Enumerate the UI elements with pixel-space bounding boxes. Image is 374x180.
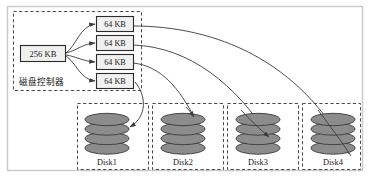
diagram-canvas: 256 KB 64 KB 64 KB 64 KB 64 KB 磁盘控制器 Di	[0, 0, 374, 180]
disk-label-1: Disk1	[97, 158, 117, 167]
stripe-block-2-label: 64 KB	[104, 39, 126, 48]
stripe-block-4[interactable]: 64 KB	[97, 74, 134, 89]
stripe-block-2[interactable]: 64 KB	[97, 36, 134, 51]
stripe-block-1-label: 64 KB	[104, 20, 126, 29]
disk-label-4: Disk4	[323, 158, 344, 167]
source-fanout-connectors	[66, 24, 95, 81]
disk-stack-3[interactable]	[236, 113, 280, 154]
disk-stack-4[interactable]	[311, 113, 355, 154]
stripe-block-3-label: 64 KB	[104, 58, 126, 67]
source-block[interactable]: 256 KB	[21, 46, 66, 62]
stripe-block-4-label: 64 KB	[104, 77, 126, 86]
disk-label-2: Disk2	[173, 158, 193, 167]
connector-stripe3-disk2	[133, 63, 194, 117]
disk-striping-diagram: 256 KB 64 KB 64 KB 64 KB 64 KB 磁盘控制器 Di	[0, 0, 374, 180]
connector-source-stripe4	[66, 56, 95, 81]
controller-caption: 磁盘控制器	[19, 76, 64, 87]
disk-stack-2[interactable]	[161, 113, 205, 154]
connector-source-stripe3	[66, 55, 95, 62]
source-block-label: 256 KB	[30, 49, 57, 59]
stripe-block-1[interactable]: 64 KB	[97, 17, 134, 32]
disk-label-3: Disk3	[248, 158, 268, 167]
connector-source-stripe1	[66, 24, 95, 53]
disk-stack-1[interactable]	[85, 113, 129, 154]
stripe-block-3[interactable]: 64 KB	[97, 55, 134, 70]
